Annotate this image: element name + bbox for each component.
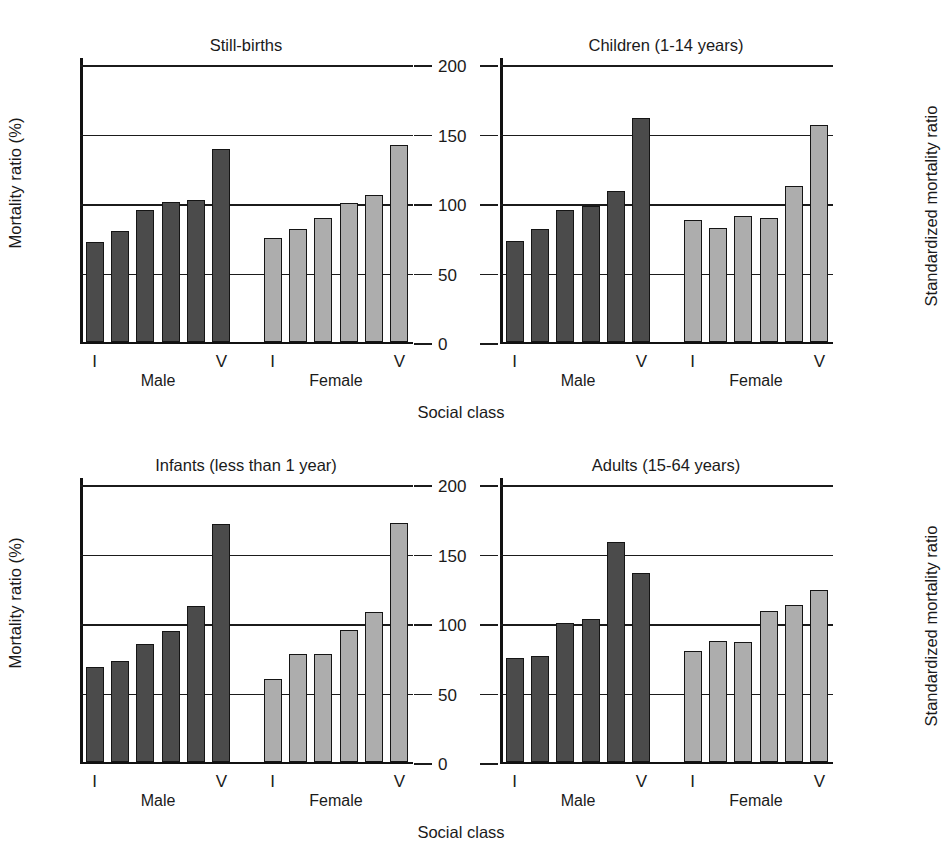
x-tick-adults-female-first: I [690, 772, 695, 792]
y-axis-title-left-bottom: Mortality ratio (%) [6, 258, 28, 488]
bar-infants-female-V [390, 523, 408, 762]
x-tick-children-male-last: V [636, 352, 647, 372]
bars-adults [502, 484, 832, 762]
bar-still-births-female-II [289, 229, 307, 342]
panel-children: Children (1-14 years) IVMaleIVFemale Sta… [462, 28, 922, 418]
x-tick-adults-male-first: I [512, 772, 517, 792]
panel-title-still-births: Still-births [80, 36, 412, 55]
bar-children-female-I [684, 220, 702, 342]
bar-adults-female-IV [785, 605, 803, 762]
bar-adults-female-I [684, 651, 702, 762]
bar-adults-male-IV [607, 542, 625, 762]
y-axis-title-right-bottom: Standardized mortality ratio [922, 476, 944, 776]
x-group-label-infants-female: Female [309, 792, 362, 810]
bar-adults-male-V [632, 573, 650, 762]
y-tick-label-0: 0 [438, 756, 447, 773]
bar-children-male-II [531, 229, 549, 342]
bar-adults-male-III [556, 623, 574, 762]
y-tick-label-0: 0 [438, 336, 447, 353]
x-tick-still-births-male-last: V [216, 352, 227, 372]
bar-infants-female-II [289, 654, 307, 762]
bar-infants-male-IIIb [162, 631, 180, 762]
x-tick-infants-female-first: I [270, 772, 275, 792]
bar-adults-male-IIIb [582, 619, 600, 762]
bar-infants-female-IV [365, 612, 383, 762]
bar-infants-female-I [264, 679, 282, 762]
bar-still-births-male-IIIb [162, 202, 180, 342]
bar-adults-female-III [734, 642, 752, 762]
bar-children-male-IIIb [582, 206, 600, 342]
bar-children-female-III [734, 216, 752, 342]
bar-infants-male-I [86, 667, 104, 762]
y-tick-mark-50 [480, 694, 498, 696]
x-group-label-still-births-female: Female [309, 372, 362, 390]
bar-infants-female-III [314, 654, 332, 762]
y-tick-mark-50 [414, 694, 432, 696]
plot-area-adults: Adults (15-64 years) IVMaleIVFemale [500, 486, 832, 764]
bar-adults-male-II [531, 656, 549, 762]
bar-still-births-female-III [314, 218, 332, 342]
y-tick-mark-0 [414, 763, 432, 765]
y-tick-mark-200 [414, 485, 432, 487]
bar-adults-female-IIIb [760, 611, 778, 763]
plot-area-still-births: Still-births 050100150200 IVMaleIVFemale [80, 66, 412, 344]
y-tick-mark-200 [414, 65, 432, 67]
bar-still-births-male-III [136, 210, 154, 342]
x-axis-title-bottom: Social class [417, 823, 504, 842]
x-tick-infants-male-last: V [216, 772, 227, 792]
x-tick-still-births-male-first: I [92, 352, 97, 372]
panel-adults: Adults (15-64 years) IVMaleIVFemale Stan… [462, 448, 922, 838]
y-tick-mark-150 [414, 135, 432, 137]
bar-still-births-male-IV [187, 200, 205, 342]
bar-still-births-female-IV [365, 195, 383, 342]
bar-children-male-V [632, 118, 650, 342]
x-axis-title-top: Social class [417, 403, 504, 422]
x-group-label-children-male: Male [561, 372, 596, 390]
y-tick-mark-0 [414, 343, 432, 345]
x-group-label-adults-female: Female [729, 792, 782, 810]
panel-title-children: Children (1-14 years) [500, 36, 832, 55]
y-tick-mark-200 [480, 65, 498, 67]
y-tick-mark-150 [480, 555, 498, 557]
bars-children [502, 64, 832, 342]
y-tick-mark-100 [480, 624, 498, 626]
y-tick-label-50: 50 [438, 266, 457, 283]
y-tick-mark-0 [480, 763, 498, 765]
y-axis-title-left-top: Mortality ratio (%) [6, 0, 28, 68]
x-tick-still-births-female-last: V [394, 352, 405, 372]
y-tick-mark-150 [480, 135, 498, 137]
bar-children-male-IV [607, 191, 625, 343]
y-tick-mark-200 [480, 485, 498, 487]
plot-area-infants: Infants (less than 1 year) 050100150200 … [80, 486, 412, 764]
bar-adults-female-V [810, 590, 828, 762]
bar-infants-female-IIIb [340, 630, 358, 762]
bar-children-male-I [506, 241, 524, 342]
bar-adults-male-I [506, 658, 524, 762]
bar-still-births-female-IIIb [340, 203, 358, 342]
x-group-label-adults-male: Male [561, 792, 596, 810]
bar-infants-male-IV [187, 606, 205, 762]
x-tick-infants-male-first: I [92, 772, 97, 792]
bar-still-births-male-I [86, 242, 104, 342]
bars-infants [82, 484, 412, 762]
bar-infants-male-III [136, 644, 154, 762]
x-tick-adults-male-last: V [636, 772, 647, 792]
y-tick-mark-100 [480, 204, 498, 206]
bar-still-births-male-V [212, 149, 230, 342]
panel-row-bottom: Mortality ratio (%) Infants (less than 1… [0, 448, 922, 838]
plot-area-children: Children (1-14 years) IVMaleIVFemale [500, 66, 832, 344]
y-tick-mark-150 [414, 555, 432, 557]
bar-children-female-IV [785, 186, 803, 342]
x-tick-adults-female-last: V [814, 772, 825, 792]
x-tick-children-male-first: I [512, 352, 517, 372]
x-group-label-still-births-male: Male [141, 372, 176, 390]
bars-still-births [82, 64, 412, 342]
y-tick-label-50: 50 [438, 686, 457, 703]
x-group-label-infants-male: Male [141, 792, 176, 810]
y-tick-mark-100 [414, 624, 432, 626]
bar-children-female-V [810, 125, 828, 342]
bar-still-births-female-I [264, 238, 282, 342]
panel-title-adults: Adults (15-64 years) [500, 456, 832, 475]
x-tick-children-female-first: I [690, 352, 695, 372]
